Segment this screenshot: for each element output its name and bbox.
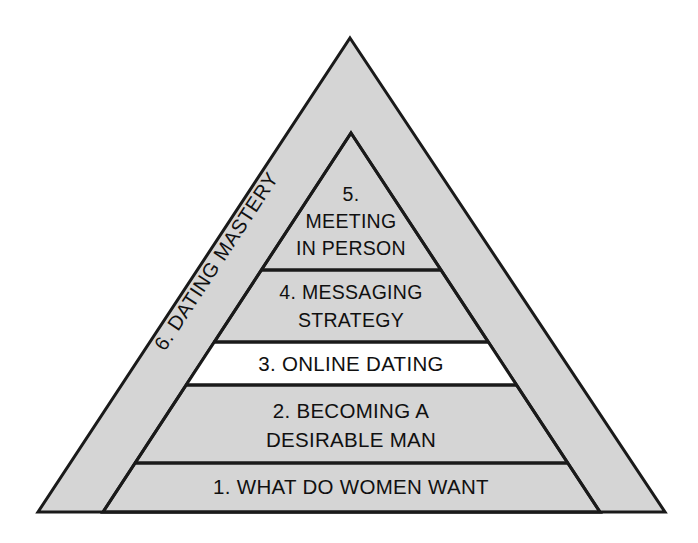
level-1-line-1: 1. WHAT DO WOMEN WANT: [213, 475, 489, 498]
level-5-line-3: IN PERSON: [296, 237, 406, 259]
level-2-line-2: DESIRABLE MAN: [266, 428, 436, 451]
level-3-label[interactable]: 3. ONLINE DATING: [258, 352, 444, 375]
level-5-line-1: 5.: [343, 183, 360, 205]
level-1-label[interactable]: 1. WHAT DO WOMEN WANT: [213, 475, 489, 498]
level-3-line-1: 3. ONLINE DATING: [258, 352, 444, 375]
level-4-line-2: STRATEGY: [298, 309, 404, 331]
pyramid-graphic: 5. MEETING IN PERSON 4. MESSAGING STRATE…: [0, 0, 698, 543]
level-5-line-2: MEETING: [306, 210, 397, 232]
level-2-line-1: 2. BECOMING A: [273, 399, 430, 422]
level-4-line-1: 4. MESSAGING: [279, 281, 422, 303]
pyramid-diagram: 5. MEETING IN PERSON 4. MESSAGING STRATE…: [0, 0, 698, 543]
